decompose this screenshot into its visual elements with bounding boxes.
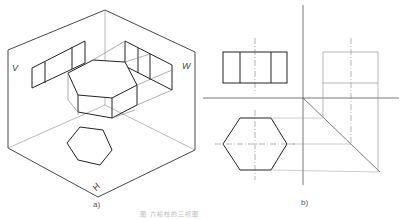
v-plane-label: V — [12, 63, 18, 73]
side-view — [323, 38, 378, 172]
front-view — [223, 38, 287, 92]
hexagonal-prism — [68, 60, 137, 118]
w-plane-label: W — [182, 61, 191, 71]
projection-lines — [271, 118, 378, 172]
figure-caption: 图 六棱柱的三视图 — [140, 209, 199, 218]
top-view — [215, 110, 295, 180]
projection-box — [8, 10, 195, 197]
h-plane-hexagon — [67, 127, 112, 165]
figure-canvas — [0, 0, 400, 219]
panel-b-label: b) — [301, 198, 308, 207]
panel-a-label: a) — [93, 200, 100, 209]
